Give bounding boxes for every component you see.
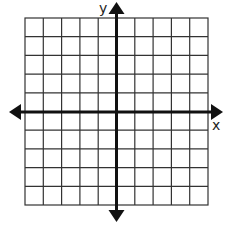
- x-axis-left-arrow-icon: [9, 104, 21, 120]
- coordinate-plane: [0, 0, 231, 234]
- y-axis-label: y: [99, 1, 107, 15]
- y-axis-up-arrow-icon: [109, 2, 125, 14]
- x-axis-label: x: [212, 118, 220, 132]
- y-axis-down-arrow-icon: [109, 210, 125, 222]
